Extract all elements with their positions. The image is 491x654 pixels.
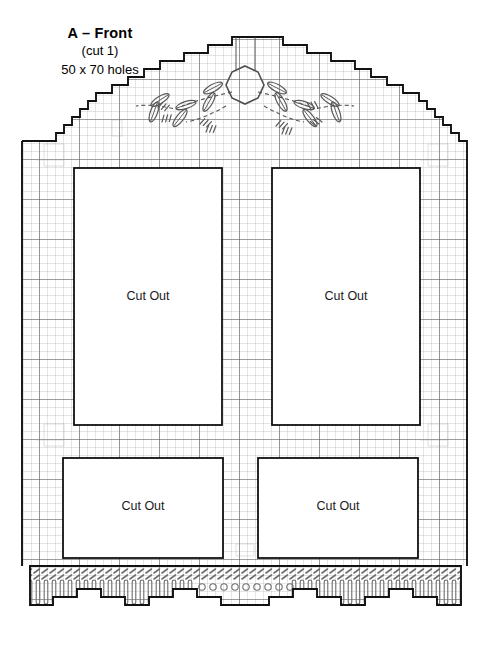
cutout-label-lower-left: Cut Out <box>121 499 164 513</box>
pattern-page: A – Front (cut 1) 50 x 70 holes <box>0 0 491 654</box>
pattern-drawing <box>0 0 491 654</box>
cutout-label-lower-right: Cut Out <box>316 499 359 513</box>
cutout-label-upper-right: Cut Out <box>324 289 367 303</box>
cutout-label-upper-left: Cut Out <box>126 289 169 303</box>
